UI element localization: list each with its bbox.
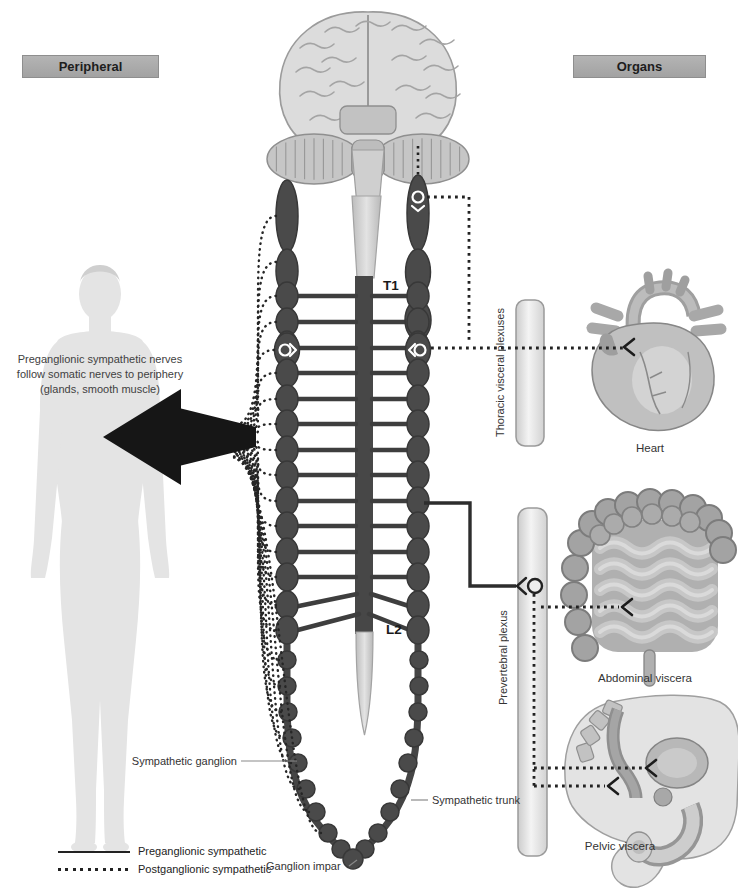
annotation-line-1: Preganglionic sympathetic nerves [13, 352, 187, 367]
legend-dotted-line-sample [58, 868, 130, 871]
sympathetic-ganglia [275, 175, 432, 869]
label-t1: T1 [383, 278, 399, 293]
label-sympathetic-trunk: Sympathetic trunk [432, 794, 520, 806]
abdominal-viscera-illustration [561, 489, 736, 686]
periphery-annotation: Preganglionic sympathetic nerves follow … [13, 352, 187, 397]
cord-t1-l2-segment [355, 276, 373, 634]
legend-preganglionic-label: Preganglionic sympathetic [138, 845, 266, 857]
label-sympathetic-ganglion: Sympathetic ganglion [123, 755, 237, 767]
label-thoracic-visceral-plexuses: Thoracic visceral plexuses [492, 298, 508, 448]
label-pelvic-viscera: Pelvic viscera [560, 840, 680, 852]
cord-caudal-tip [356, 632, 373, 735]
label-heart: Heart [600, 442, 700, 454]
annotation-line-2: follow somatic nerves to periphery [13, 367, 187, 382]
sympathetic-nervous-system-diagram: Peripheral Organs Preganglionic sympathe… [0, 0, 738, 891]
pelvic-viscera-illustration [565, 695, 738, 887]
legend-solid-line-sample [58, 851, 130, 853]
spinal-cord [352, 196, 381, 735]
header-organs-label: Organs [617, 59, 663, 74]
label-abdominal-viscera: Abdominal viscera [575, 672, 715, 684]
header-organs: Organs [573, 55, 706, 78]
preganglionic-nerve-lines [290, 296, 415, 631]
header-peripheral-label: Peripheral [59, 59, 123, 74]
thoracic-plexus-bar [516, 300, 544, 446]
label-prevertebral-plexus: Prevertebral plexus [495, 553, 511, 763]
annotation-line-3: (glands, smooth muscle) [13, 382, 187, 397]
heart-illustration [592, 273, 721, 430]
header-peripheral: Peripheral [22, 55, 159, 78]
prevertebral-plexus-bar [518, 508, 547, 856]
legend-postganglionic-label: Postganglionic sympathetic [138, 863, 271, 875]
label-l2: L2 [386, 622, 402, 637]
label-ganglion-impar: Ganglion impar [266, 860, 341, 872]
